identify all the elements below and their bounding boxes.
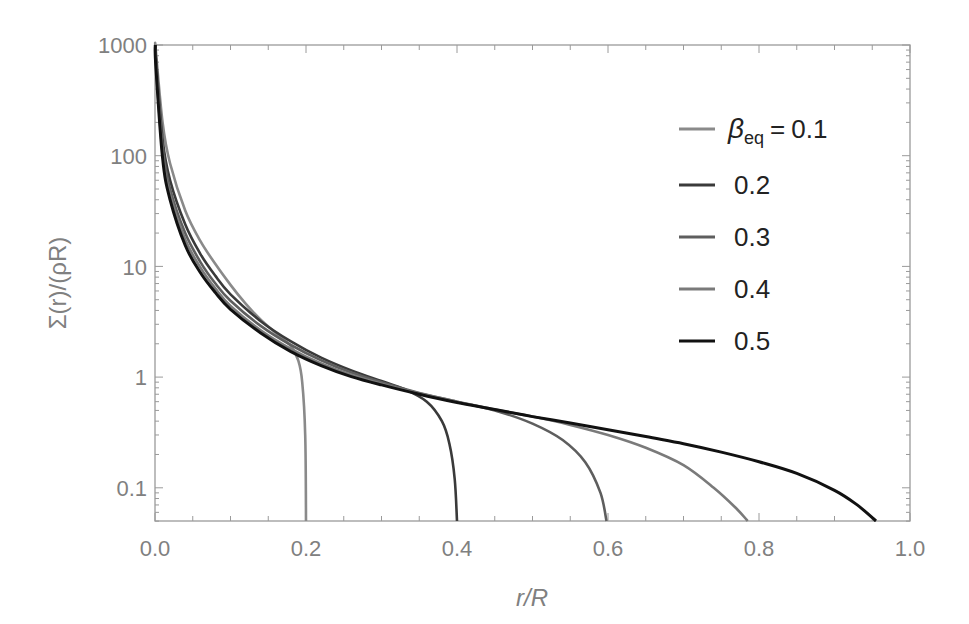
beta-subscript: eq [744,128,764,148]
legend-label-0.1: βeq=0.1 [727,113,827,148]
x-tick-label-0.8: 0.8 [744,536,775,561]
legend-value-0.1: 0.1 [791,114,827,144]
y-tick-label-10: 10 [123,255,147,280]
legend-label-0.2: 0.2 [734,170,770,200]
y-tick-labels: 1000 100 10 1 0.1 [98,33,147,501]
x-tick-label-0.2: 0.2 [291,536,322,561]
y-tick-label-0.1: 0.1 [116,476,147,501]
y-axis-label: Σ(r)/(ρR) [44,237,71,329]
legend: βeq=0.1 0.2 0.3 0.4 0.5 [679,113,827,356]
x-tick-label-0.0: 0.0 [140,536,171,561]
x-tick-label-1.0: 1.0 [895,536,926,561]
x-tick-label-0.4: 0.4 [442,536,473,561]
y-tick-label-1: 1 [135,365,147,390]
curve-beta-0.1 [155,43,306,521]
chart: 1000 100 10 1 0.1 0.0 0.2 0.4 0.6 0.8 1.… [0,0,969,624]
y-tick-label-1000: 1000 [98,33,147,58]
beta-symbol: β [727,113,744,144]
equals-sign: = [770,114,785,144]
y-tick-label-100: 100 [110,144,147,169]
x-axis-label: r/R [516,584,548,611]
legend-label-0.5: 0.5 [734,326,770,356]
legend-label-0.3: 0.3 [734,222,770,252]
curve-beta-0.3 [155,45,606,521]
legend-label-0.4: 0.4 [734,274,770,304]
x-tick-labels: 0.0 0.2 0.4 0.6 0.8 1.0 [140,536,926,561]
x-tick-label-0.6: 0.6 [593,536,624,561]
